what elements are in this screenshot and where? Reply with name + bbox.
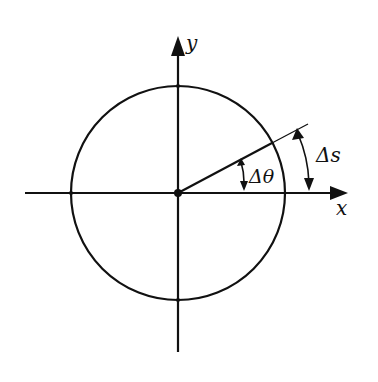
- angle-arc: [237, 158, 248, 191]
- arc-arrow-down-icon: [304, 178, 314, 191]
- left-intersection: [69, 191, 73, 195]
- y-axis-label: y: [185, 31, 198, 55]
- bottom-intersection: [176, 298, 180, 302]
- arc-arrow-up-icon: [292, 128, 304, 140]
- arc-length-label: Δs: [315, 143, 341, 167]
- arc-length-arc: [292, 128, 314, 191]
- unit-circle-diagram: y x Δθ Δs: [0, 0, 378, 382]
- top-intersection: [176, 84, 180, 88]
- angle-arrow-down-icon: [240, 181, 248, 191]
- diagram-canvas: y x Δθ Δs: [0, 0, 378, 382]
- y-axis-arrow-icon: [171, 36, 185, 56]
- extension-line: [272, 124, 308, 143]
- x-axis-label: x: [336, 196, 347, 220]
- angle-label: Δθ: [248, 165, 275, 187]
